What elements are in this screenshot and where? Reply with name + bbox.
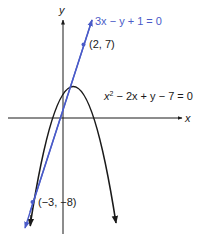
y-axis-label: y [58,4,66,16]
parabola-left-arrow-icon [30,215,31,226]
point-label-2-7: (2, 7) [89,38,115,50]
parabola-eq-rest: − 2x + y − 7 = 0 [113,90,193,102]
line-equation-label: 3x − y + 1 = 0 [95,15,162,27]
x-axis-label: x [184,112,191,124]
point-2-7 [82,43,86,47]
graph-canvas: x y (2, 7) (−3, −8) 3x − y + 1 = 0 x2 − … [0,0,197,234]
point-neg3-neg8 [31,200,35,204]
line-top-arrow [30,20,92,212]
parabola-equation-label: x2 − 2x + y − 7 = 0 [103,90,193,102]
point-label-neg3-neg8: (−3, −8) [38,196,77,208]
